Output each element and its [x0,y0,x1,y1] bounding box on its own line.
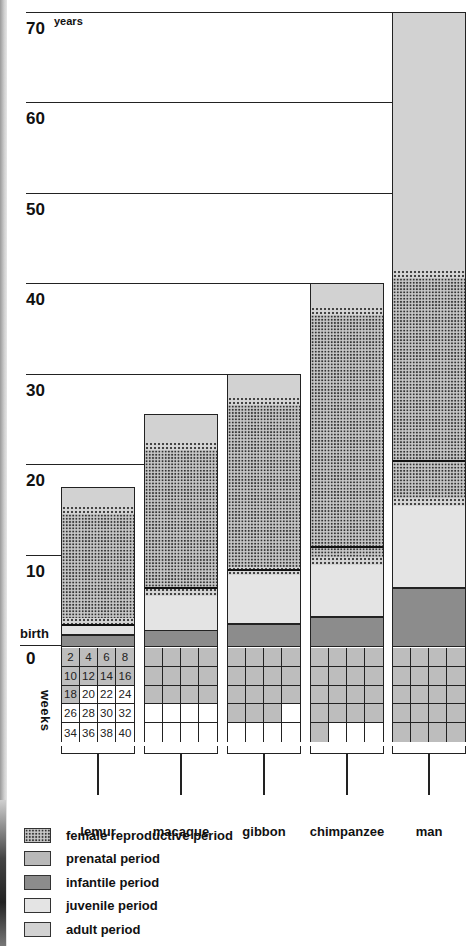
week-cell [311,686,329,705]
legend-item-juvenile: juvenile period [24,897,158,915]
week-cell [329,667,347,686]
week-cell [282,686,300,705]
week-cell [264,648,282,667]
segment-adult-period [393,13,465,271]
gridline-70 [26,12,392,13]
week-cell [282,667,300,686]
week-cell: 6 [98,648,116,667]
week-cell [365,667,383,686]
segment-female-reproductive-period [393,278,465,497]
week-cell [365,704,383,723]
week-cell: 30 [98,704,116,723]
legend-label-prenatal: prenatal period [66,851,160,866]
column-chimpanzee [310,283,384,742]
legend-swatch-prenatal [24,851,51,866]
week-cell [329,723,347,742]
week-cell [347,704,365,723]
week-cell [199,648,217,667]
week-cell [163,686,181,705]
segment-adult-period [228,375,300,398]
adulthood-line [62,624,134,626]
week-cell [311,723,329,742]
week-cell [246,686,264,705]
column-macaque [144,414,218,742]
week-cell [163,667,181,686]
week-cell [264,686,282,705]
week-cell [365,648,383,667]
birth-line [20,645,62,646]
juvenile-infantile-divider [228,623,300,624]
segment-infantile-period [62,634,134,646]
week-cell [347,648,365,667]
week-cell: 8 [116,648,134,667]
legend-label-infantile: infantile period [66,875,159,890]
week-cell [447,723,465,742]
week-cell [282,648,300,667]
gridline-50 [26,193,392,194]
week-cell [411,723,429,742]
legend-item-prenatal: prenatal period [24,850,160,868]
legend-label-adult: adult period [66,922,140,937]
week-cell [199,723,217,742]
segment-juvenile-period [311,565,383,617]
week-cell [246,667,264,686]
week-cell [145,686,163,705]
weeks-axis-label: weeks [38,690,53,732]
legend-swatch-juvenile [24,898,51,913]
week-cell: 4 [80,648,98,667]
week-cell: 20 [80,686,98,705]
y-tick-60: 60 [26,110,45,127]
legend-label-juvenile: juvenile period [66,898,158,913]
x-label-man: man [384,824,474,839]
week-cell [145,667,163,686]
segment-infantile-period [393,587,465,646]
week-cell [365,723,383,742]
week-cell: 22 [98,686,116,705]
y-tick-10: 10 [26,563,45,580]
segment-repro-fringe [311,307,383,315]
week-cell [411,704,429,723]
birth-label: birth [20,626,49,641]
page-edge-binding [0,800,6,946]
week-cell [228,667,246,686]
segment-juvenile-period [145,596,217,629]
week-cell: 36 [80,723,98,742]
prenatal-weeks-grid [311,648,383,742]
week-cell [411,686,429,705]
gridline-20 [26,464,144,465]
y-tick-30: 30 [26,382,45,399]
week-cell [228,723,246,742]
column-bracket-stem [180,753,181,795]
week-cell [163,723,181,742]
week-cell [329,704,347,723]
prenatal-weeks-grid [228,648,300,742]
week-cell [228,704,246,723]
week-cell [447,686,465,705]
segment-adult-period [311,284,383,307]
week-cell: 26 [62,704,80,723]
legend-label-repro: female reproductive period [66,828,233,843]
week-cell [228,648,246,667]
week-cell [347,723,365,742]
segment-repro-fringe-lower [145,588,217,596]
juvenile-infantile-divider [393,587,465,588]
segment-infantile-period [311,616,383,646]
adulthood-line [145,587,217,589]
segment-juvenile-period [393,506,465,587]
gridline-40 [26,283,310,284]
legend-swatch-adult [24,922,51,937]
week-cell [163,648,181,667]
week-cell [429,723,447,742]
week-cell [447,704,465,723]
y-tick-40: 40 [26,291,45,308]
segment-repro-fringe [145,442,217,450]
segment-juvenile-period [62,626,134,634]
week-cell [347,667,365,686]
week-cell: 28 [80,704,98,723]
week-cell: 34 [62,723,80,742]
week-cell [429,648,447,667]
legend-item-adult: adult period [24,920,140,938]
segment-adult-period [145,415,217,442]
week-cell [199,704,217,723]
week-cell: 32 [116,704,134,723]
